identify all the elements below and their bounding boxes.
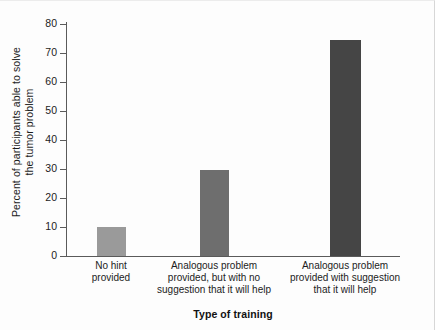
y-axis-tick-label: 30 xyxy=(45,162,57,175)
y-axis-title-line-2: the tumor problem xyxy=(23,47,36,217)
x-axis-line xyxy=(66,256,400,257)
x-axis-title: Type of training xyxy=(66,308,400,320)
x-axis-category-labels: No hintprovidedAnalogous problemprovided… xyxy=(66,260,400,308)
chart-figure: Percent of participants able to solve th… xyxy=(0,0,435,330)
y-axis-tick-mark xyxy=(60,256,66,257)
x-axis-category-label-line: provided with suggestion xyxy=(265,272,425,284)
y-axis-tick-label: 70 xyxy=(45,46,57,59)
y-axis-tick-label: 50 xyxy=(45,104,57,117)
y-axis-tick-label: 40 xyxy=(45,133,57,146)
y-axis-title-text: Percent of participants able to solve th… xyxy=(10,47,36,217)
x-axis-category-label-line: that it will help xyxy=(265,284,425,296)
bar xyxy=(200,170,229,256)
x-axis-category-label-line: Analogous problem xyxy=(265,260,425,272)
y-axis-tick-label: 10 xyxy=(45,220,57,233)
x-axis-category-label: Analogous problemprovided with suggestio… xyxy=(265,260,425,297)
bar xyxy=(330,40,361,256)
y-axis-tick-label: 60 xyxy=(45,75,57,88)
y-axis-title: Percent of participants able to solve th… xyxy=(0,1,46,263)
y-axis-tick-label: 0 xyxy=(51,249,57,262)
y-axis-tick-label: 80 xyxy=(45,17,57,30)
plot-area xyxy=(66,24,400,256)
y-axis-tick-label: 20 xyxy=(45,191,57,204)
y-axis-title-line-1: Percent of participants able to solve xyxy=(10,47,22,217)
bar xyxy=(97,227,126,256)
